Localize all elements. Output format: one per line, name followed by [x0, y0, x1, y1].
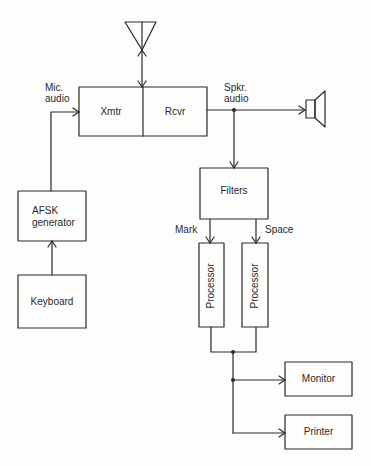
afsk-generator-label: AFSK generator [32, 205, 75, 229]
speaker-icon [306, 91, 325, 127]
keyboard-label: Keyboard [18, 275, 86, 328]
processor-mark-label: Processor [205, 256, 217, 316]
rtty-block-diagram: Mic. audio Spkr. audio Mark Space Xmtr R… [0, 0, 371, 466]
junction-node [231, 378, 235, 382]
spkr-label-line1: Spkr. [224, 82, 248, 93]
junction-node [232, 108, 236, 112]
junction-node [231, 350, 235, 354]
antenna-icon [125, 22, 156, 87]
xmtr-label: Xmtr [79, 87, 143, 136]
space-label: Space [265, 224, 293, 235]
mic-label-line2: audio [45, 93, 69, 104]
mic-label-line1: Mic. [45, 82, 69, 93]
afsk-label-line1: AFSK [32, 205, 75, 217]
spkr-label-line2: audio [224, 93, 248, 104]
spkr-audio-label: Spkr. audio [224, 82, 248, 104]
afsk-label-line2: generator [32, 217, 75, 229]
monitor-label: Monitor [285, 362, 352, 396]
processor-space-label: Processor [249, 256, 261, 316]
mark-label: Mark [175, 224, 197, 235]
mic-audio-label: Mic. audio [45, 82, 69, 104]
rcvr-label: Rcvr [143, 87, 207, 136]
mic-audio-line [51, 112, 79, 191]
filters-label: Filters [200, 168, 268, 214]
printer-label: Printer [285, 415, 352, 449]
